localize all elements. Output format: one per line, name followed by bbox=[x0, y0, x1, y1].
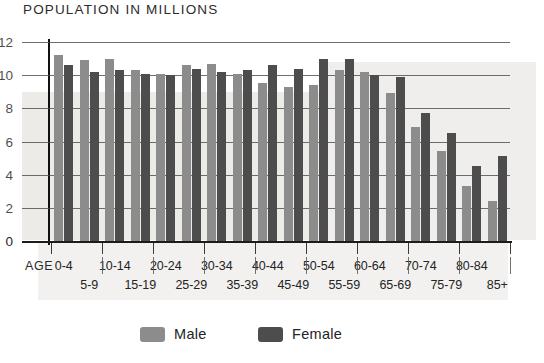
bar-female-60-64[interactable] bbox=[370, 75, 379, 241]
bar-male-80-84[interactable] bbox=[462, 186, 471, 241]
bar-group-70-74[interactable] bbox=[408, 42, 434, 241]
bar-female-5-9[interactable] bbox=[90, 72, 99, 241]
x-axis-label-25-29: 25-29 bbox=[176, 278, 207, 292]
bar-male-70-74[interactable] bbox=[411, 127, 420, 241]
bar-group-85+[interactable] bbox=[485, 42, 511, 241]
x-tick-2 bbox=[102, 243, 103, 254]
x-tick-10 bbox=[306, 243, 307, 254]
y-tick-label-12: 12 bbox=[0, 35, 13, 50]
bar-male-30-34[interactable] bbox=[207, 64, 216, 241]
legend-swatch-female-icon bbox=[258, 327, 283, 342]
bar-female-55-59[interactable] bbox=[345, 59, 354, 241]
bar-group-50-54[interactable] bbox=[306, 42, 332, 241]
x-axis-label-0-4: 0-4 bbox=[55, 259, 73, 273]
bar-male-60-64[interactable] bbox=[360, 72, 369, 241]
bar-male-15-19[interactable] bbox=[131, 70, 140, 241]
bar-female-0-4[interactable] bbox=[64, 65, 73, 241]
x-label-separator-8 bbox=[255, 257, 256, 274]
bar-group-65-69[interactable] bbox=[383, 42, 409, 241]
x-axis-label-60-64: 60-64 bbox=[354, 259, 385, 273]
bar-female-75-79[interactable] bbox=[447, 133, 456, 241]
bar-group-40-44[interactable] bbox=[255, 42, 281, 241]
bar-male-50-54[interactable] bbox=[309, 85, 318, 241]
bar-female-40-44[interactable] bbox=[268, 65, 277, 241]
bar-female-10-14[interactable] bbox=[115, 70, 124, 241]
x-tick-0 bbox=[51, 243, 52, 254]
x-axis-ticks bbox=[51, 243, 510, 255]
x-axis-labels: AGE 0-45-910-1415-1920-2425-2930-3435-39… bbox=[0, 255, 544, 303]
x-axis-label-50-54: 50-54 bbox=[303, 259, 334, 273]
bar-group-15-19[interactable] bbox=[128, 42, 154, 241]
bar-female-25-29[interactable] bbox=[192, 69, 201, 241]
x-axis-label-15-19: 15-19 bbox=[125, 278, 156, 292]
x-label-separator-10 bbox=[306, 257, 307, 274]
bar-male-55-59[interactable] bbox=[335, 70, 344, 241]
bar-group-35-39[interactable] bbox=[230, 42, 256, 241]
bar-female-70-74[interactable] bbox=[421, 113, 430, 241]
bar-group-75-79[interactable] bbox=[434, 42, 460, 241]
x-label-separator-4 bbox=[153, 257, 154, 274]
x-tick-8 bbox=[255, 243, 256, 254]
x-tick-6 bbox=[204, 243, 205, 254]
bar-female-20-24[interactable] bbox=[166, 75, 175, 241]
bar-group-45-49[interactable] bbox=[281, 42, 307, 241]
x-label-separator-18 bbox=[510, 257, 511, 274]
bar-female-15-19[interactable] bbox=[141, 74, 150, 241]
bar-female-30-34[interactable] bbox=[217, 72, 226, 241]
x-axis-label-35-39: 35-39 bbox=[227, 278, 258, 292]
bar-male-5-9[interactable] bbox=[80, 60, 89, 241]
x-axis-label-45-49: 45-49 bbox=[278, 278, 309, 292]
bar-male-65-69[interactable] bbox=[386, 93, 395, 241]
y-tick-label-8: 8 bbox=[5, 101, 13, 116]
y-tick-label-0: 0 bbox=[5, 234, 13, 249]
y-tick-label-4: 4 bbox=[5, 167, 13, 182]
y-tick-label-10: 10 bbox=[0, 68, 13, 83]
x-label-separator-12 bbox=[357, 257, 358, 274]
x-label-separator-6 bbox=[204, 257, 205, 274]
x-label-separator-2 bbox=[102, 257, 103, 274]
y-tick-label-6: 6 bbox=[5, 134, 13, 149]
bar-female-45-49[interactable] bbox=[294, 69, 303, 241]
x-axis-label-20-24: 20-24 bbox=[150, 259, 181, 273]
bar-male-0-4[interactable] bbox=[54, 55, 63, 241]
legend-swatch-male-icon bbox=[140, 327, 165, 342]
bar-male-10-14[interactable] bbox=[105, 59, 114, 241]
bar-female-35-39[interactable] bbox=[243, 70, 252, 241]
bar-group-55-59[interactable] bbox=[332, 42, 358, 241]
bar-group-0-4[interactable] bbox=[51, 42, 77, 241]
legend-label-female: Female bbox=[292, 326, 342, 342]
bar-male-25-29[interactable] bbox=[182, 65, 191, 241]
bar-group-25-29[interactable] bbox=[179, 42, 205, 241]
bar-female-80-84[interactable] bbox=[472, 166, 481, 241]
plot-area: 024681012 bbox=[51, 42, 510, 241]
bar-male-20-24[interactable] bbox=[156, 74, 165, 241]
bar-group-5-9[interactable] bbox=[77, 42, 103, 241]
x-tick-12 bbox=[357, 243, 358, 254]
x-axis-label-55-59: 55-59 bbox=[329, 278, 360, 292]
x-tick-14 bbox=[408, 243, 409, 254]
chart-plot: 024681012 bbox=[0, 0, 544, 363]
x-axis-label-40-44: 40-44 bbox=[252, 259, 283, 273]
bar-group-80-84[interactable] bbox=[459, 42, 485, 241]
bar-group-60-64[interactable] bbox=[357, 42, 383, 241]
x-axis-label-70-74: 70-74 bbox=[405, 259, 436, 273]
x-tick-18 bbox=[510, 243, 511, 254]
x-tick-4 bbox=[153, 243, 154, 254]
legend-item-female: Female bbox=[258, 326, 342, 342]
bar-group-10-14[interactable] bbox=[102, 42, 128, 241]
x-axis-label-65-69: 65-69 bbox=[380, 278, 411, 292]
bar-male-85+[interactable] bbox=[488, 201, 497, 241]
bar-female-65-69[interactable] bbox=[396, 77, 405, 241]
bar-female-85+[interactable] bbox=[498, 156, 507, 241]
bar-group-20-24[interactable] bbox=[153, 42, 179, 241]
x-axis-label-5-9: 5-9 bbox=[80, 278, 98, 292]
x-axis-label-10-14: 10-14 bbox=[99, 259, 130, 273]
bar-female-50-54[interactable] bbox=[319, 59, 328, 241]
bar-male-40-44[interactable] bbox=[258, 83, 267, 241]
bar-male-45-49[interactable] bbox=[284, 87, 293, 241]
bar-male-75-79[interactable] bbox=[437, 151, 446, 241]
age-axis-caption: AGE bbox=[25, 259, 53, 273]
bar-male-35-39[interactable] bbox=[233, 74, 242, 241]
x-axis-label-85+: 85+ bbox=[487, 278, 508, 292]
bar-group-30-34[interactable] bbox=[204, 42, 230, 241]
